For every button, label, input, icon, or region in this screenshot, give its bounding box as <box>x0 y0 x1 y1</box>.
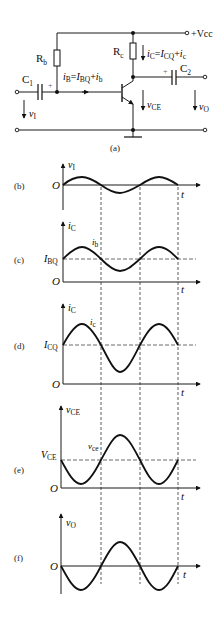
icq-label: ICQ <box>43 339 58 352</box>
vce-dc-label: VCE <box>41 449 57 462</box>
time-guides <box>101 187 178 584</box>
caption-a: (a) <box>110 143 120 153</box>
plot-c: (c) O t iC IBQ ib <box>14 220 200 295</box>
ic-label: iC=ICQ+ic <box>147 48 187 61</box>
plot-f: (f) O t vO <box>14 514 200 594</box>
ic-curve-label: ic <box>90 317 97 329</box>
ic-waveform <box>63 324 178 372</box>
amplifier-figure: +Vcc Rb Rc iC=ICQ+ic + C1 iB=IBQ+ib vI <box>0 0 224 621</box>
circuit-schematic: +Vcc Rb Rc iC=ICQ+ic + C1 iB=IBQ+ib vI <box>15 28 213 153</box>
vce-waveform <box>61 435 178 484</box>
origin-label: O <box>52 275 60 287</box>
vcc-label: +Vcc <box>191 28 213 39</box>
output-terminal-ground <box>203 128 207 132</box>
plot-d: (d) O t iC ICQ ic <box>14 302 200 398</box>
y-label: vI <box>68 159 75 172</box>
panel-tag: (b) <box>14 181 25 191</box>
vin-label: vI <box>29 108 36 121</box>
vce-label: vCE <box>147 99 161 112</box>
panel-tag: (e) <box>14 465 24 475</box>
ibq-label: IBQ <box>43 253 58 266</box>
ib-curve-label: ib <box>92 237 99 249</box>
y-label: vCE <box>66 404 80 417</box>
rb-label: Rb <box>36 52 47 67</box>
origin-label: O <box>50 560 58 572</box>
vout-label: vO <box>199 101 209 114</box>
rc-resistor <box>130 43 136 59</box>
ib-label: iB=IBQ+ib <box>63 71 103 84</box>
t-label: t <box>181 490 185 502</box>
c1-plus-sign: + <box>48 81 53 90</box>
t-label: t <box>181 283 185 295</box>
y-label: iC <box>68 220 76 233</box>
vce-curve-label: vce <box>88 441 99 453</box>
transistor-collector-leg <box>122 81 133 88</box>
t-label: t <box>181 386 185 398</box>
input-terminal <box>15 90 19 94</box>
base-node <box>55 90 59 94</box>
panel-tag: (c) <box>14 255 24 265</box>
c2-label: C2 <box>180 62 191 77</box>
panel-tag: (f) <box>14 553 23 563</box>
origin-label: O <box>52 179 60 191</box>
vcc-terminal <box>185 31 189 35</box>
c2-plus-sign: + <box>163 67 168 76</box>
rb-resistor <box>54 50 60 66</box>
origin-label: O <box>52 378 60 390</box>
output-terminal-top <box>203 75 207 79</box>
t-label: t <box>181 188 185 200</box>
input-terminal-ground <box>15 128 19 132</box>
y-label: vO <box>66 517 76 530</box>
rc-label: Rc <box>113 45 124 60</box>
plot-b: (b) O t vI <box>14 159 200 210</box>
y-label: iC <box>68 302 76 315</box>
origin-label: O <box>50 482 58 494</box>
transistor-emitter-arrow-icon <box>122 97 133 104</box>
plot-e: (e) O t vCE VCE vce <box>14 404 200 502</box>
panel-tag: (d) <box>14 341 25 351</box>
t-label: t <box>183 568 187 580</box>
c1-label: C1 <box>22 73 33 88</box>
